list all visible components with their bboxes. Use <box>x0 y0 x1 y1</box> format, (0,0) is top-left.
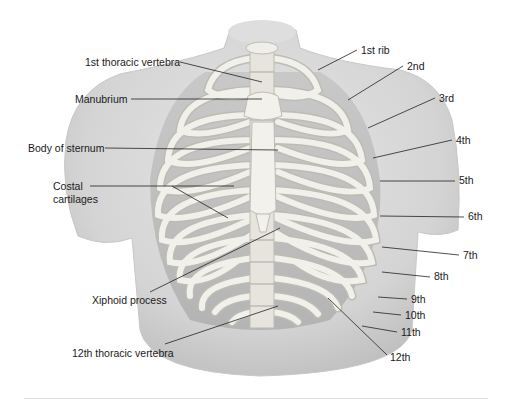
label-12th-thoracic-vertebra: 12th thoracic vertebra <box>72 347 174 359</box>
label-rib-2: 2nd <box>407 60 425 72</box>
label-rib-5: 5th <box>459 174 474 186</box>
manubrium <box>244 92 282 120</box>
label-cartilages: cartilages <box>53 193 98 205</box>
thoracic-cage-figure: 1st thoracic vertebra Manubrium Body of … <box>0 0 509 402</box>
label-rib-7: 7th <box>463 249 478 261</box>
label-rib-8: 8th <box>434 270 449 282</box>
label-rib-6: 6th <box>468 210 483 222</box>
label-manubrium: Manubrium <box>75 93 128 105</box>
label-rib-1: 1st rib <box>361 44 390 56</box>
label-rib-9: 9th <box>411 293 426 305</box>
label-xiphoid-process: Xiphoid process <box>92 294 167 306</box>
bottom-divider <box>24 398 488 399</box>
label-1st-thoracic-vertebra: 1st thoracic vertebra <box>85 56 180 68</box>
label-body-of-sternum: Body of sternum <box>28 142 104 154</box>
label-rib-12: 12th <box>390 351 410 363</box>
label-rib-10: 10th <box>405 309 425 321</box>
label-costal: Costal <box>53 180 83 192</box>
label-rib-4: 4th <box>456 134 471 146</box>
sternum-body <box>250 122 276 215</box>
label-rib-3: 3rd <box>439 92 454 104</box>
label-rib-11: 11th <box>401 326 421 338</box>
